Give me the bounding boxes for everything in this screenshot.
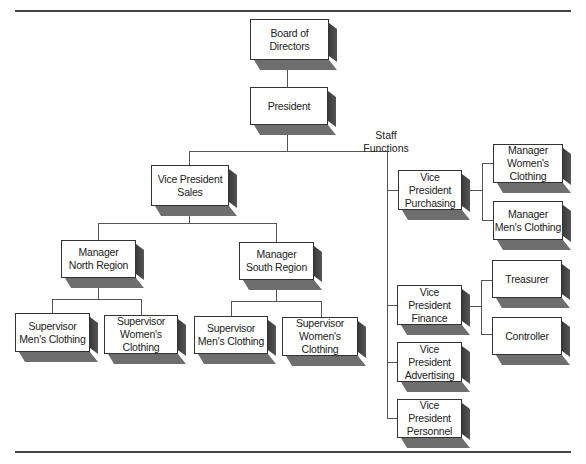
node-label: Men's Clothing: [495, 221, 561, 234]
node-label: Personnel: [407, 425, 452, 438]
node-controller: Controller: [492, 317, 562, 355]
node-label: Manager: [508, 144, 548, 157]
node-label: Vice President: [158, 173, 223, 186]
node-label: Supervisor: [296, 317, 344, 330]
staff-trunk: [387, 151, 388, 418]
connector: [387, 418, 397, 419]
node-label: Sales: [177, 186, 202, 199]
label-line: Staff: [358, 129, 414, 142]
connector: [98, 223, 99, 240]
node-label: Clothing: [510, 170, 547, 183]
node-label: Supervisor: [28, 320, 76, 333]
top-rule: [15, 10, 571, 12]
connector: [231, 301, 322, 302]
label-line: Functions: [358, 142, 414, 155]
node-label: President: [268, 100, 311, 113]
node-label: Vice President: [398, 399, 461, 425]
connector: [321, 301, 322, 317]
connector: [231, 301, 232, 316]
node-label: Manager: [256, 248, 296, 261]
connector: [387, 305, 397, 306]
node-label: Manager: [508, 208, 548, 221]
staff-functions-label: Staff Functions: [358, 129, 414, 155]
node-manager-north-region: ManagerNorth Region: [61, 240, 136, 278]
connector: [481, 280, 492, 281]
node-president: President: [250, 87, 328, 125]
node-label: Advertising: [405, 369, 455, 382]
node-label: South Region: [246, 261, 307, 274]
connector: [52, 299, 142, 300]
node-label: Women's Clothing: [283, 330, 357, 356]
node-supervisor-north-mens: SupervisorMen's Clothing: [15, 313, 90, 352]
connector: [482, 220, 493, 221]
connector: [387, 362, 397, 363]
node-vp-purchasing: Vice PresidentPurchasing: [398, 170, 462, 210]
node-label: Purchasing: [405, 197, 456, 210]
connector: [52, 299, 53, 313]
node-label: Finance: [412, 312, 448, 325]
node-label: Controller: [505, 330, 549, 343]
node-label: Treasurer: [505, 273, 548, 286]
connector: [482, 163, 483, 220]
node-vp-advertising: Vice PresidentAdvertising: [397, 342, 462, 382]
node-label: Board of: [270, 27, 308, 40]
bottom-rule: [15, 451, 571, 453]
connector: [482, 163, 493, 164]
node-label: Men's Clothing: [19, 333, 85, 346]
connector: [481, 334, 492, 335]
node-board-of-directors: Board ofDirectors: [250, 19, 329, 60]
node-manager-womens-clothing: ManagerWomen'sClothing: [493, 144, 563, 183]
node-label: Vice President: [399, 171, 461, 197]
connector: [470, 306, 481, 307]
connector: [276, 223, 277, 242]
connector: [481, 280, 482, 334]
node-manager-mens-clothing: ManagerMen's Clothing: [493, 201, 563, 240]
node-label: Men's Clothing: [198, 335, 264, 348]
node-vp-sales: Vice PresidentSales: [151, 165, 229, 206]
node-treasurer: Treasurer: [492, 260, 562, 298]
node-supervisor-south-womens: SupervisorWomen's Clothing: [282, 317, 358, 356]
node-supervisor-south-mens: SupervisorMen's Clothing: [194, 316, 268, 354]
connector: [141, 299, 142, 315]
node-label: North Region: [69, 259, 128, 272]
node-label: Manager: [78, 246, 118, 259]
node-label: Vice President: [398, 343, 461, 369]
connector: [98, 223, 277, 224]
node-label: Women's Clothing: [105, 328, 177, 354]
node-vp-personnel: Vice PresidentPersonnel: [397, 399, 462, 438]
node-supervisor-north-womens: SupervisorWomen's Clothing: [104, 315, 178, 354]
node-label: Vice President: [398, 286, 461, 312]
connector: [387, 190, 398, 191]
connector: [189, 151, 190, 165]
node-label: Women's: [507, 157, 549, 170]
connector: [470, 190, 482, 191]
node-label: Supervisor: [207, 322, 255, 335]
node-manager-south-region: ManagerSouth Region: [239, 242, 314, 280]
node-label: Directors: [269, 40, 309, 53]
node-vp-finance: Vice PresidentFinance: [397, 285, 462, 325]
node-label: Supervisor: [117, 315, 165, 328]
